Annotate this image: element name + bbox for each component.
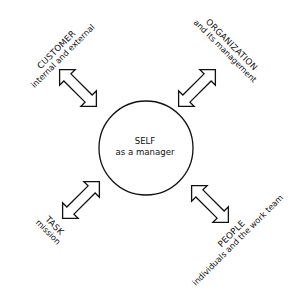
arrow-people-icon bbox=[184, 178, 236, 230]
arrow-task-icon bbox=[55, 174, 107, 226]
center-title: SELF bbox=[99, 136, 191, 147]
arrow-customer-icon bbox=[52, 62, 104, 114]
center-node-label: SELF as a manager bbox=[99, 136, 191, 157]
center-subtitle: as a manager bbox=[99, 147, 191, 158]
arrow-organization-icon bbox=[171, 62, 223, 114]
